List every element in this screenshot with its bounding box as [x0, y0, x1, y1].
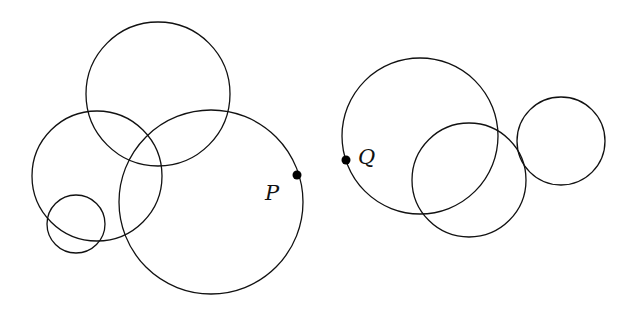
small-circle — [47, 195, 105, 253]
q-circle — [342, 58, 498, 214]
point-q-label: Q — [358, 145, 375, 169]
top-circle — [86, 22, 230, 166]
left-circle — [32, 111, 162, 241]
point-q-dot — [342, 156, 351, 165]
middle-circle — [412, 123, 526, 237]
right-circle-group: Q — [342, 58, 606, 237]
circles-diagram: P Q — [0, 0, 631, 312]
point-p-label: P — [264, 181, 280, 205]
right-circle — [517, 97, 605, 185]
point-p-dot — [293, 171, 302, 180]
left-circle-group: P — [32, 22, 303, 294]
